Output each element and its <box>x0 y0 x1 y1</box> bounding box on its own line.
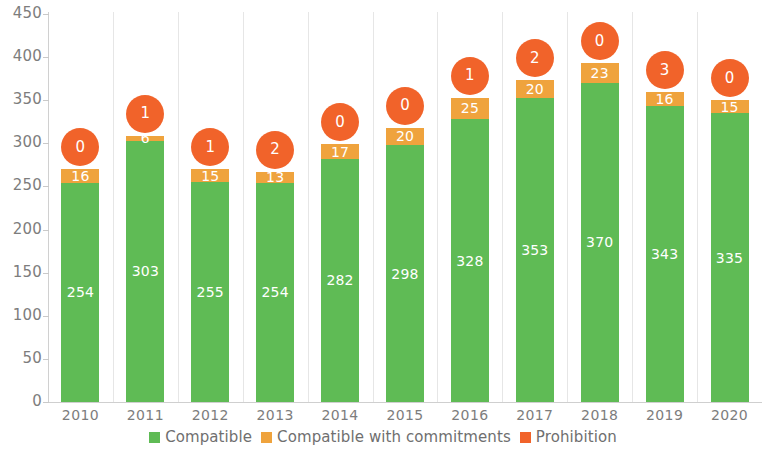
prohibition-bubble-2014[interactable]: 0 <box>321 103 359 141</box>
vertical-gridline <box>567 12 568 402</box>
y-axis-tick <box>43 14 49 15</box>
vertical-gridline <box>502 12 503 402</box>
y-axis-tick-label: 200 <box>2 222 42 237</box>
legend-item-2[interactable]: Prohibition <box>520 430 617 445</box>
vertical-gridline <box>373 12 374 402</box>
vertical-gridline <box>113 12 114 402</box>
y-axis-tick-label: 450 <box>2 6 42 21</box>
bar-value-label-compatible: 282 <box>321 273 359 287</box>
x-axis-label-2019: 2019 <box>635 408 695 422</box>
y-axis-tick-label: 100 <box>2 308 42 323</box>
bar-column-2016[interactable]: 32825 <box>451 98 489 402</box>
x-axis-label-2014: 2014 <box>310 408 370 422</box>
legend-label: Compatible <box>165 430 252 445</box>
legend-item-1[interactable]: Compatible with commitments <box>261 430 511 445</box>
y-axis-tick-label: 350 <box>2 92 42 107</box>
x-axis-label-2010: 2010 <box>50 408 110 422</box>
y-axis-tick-label: 250 <box>2 178 42 193</box>
y-axis-labels: 050100150200250300350400450 <box>0 0 42 452</box>
legend-swatch-icon <box>520 432 531 443</box>
legend-swatch-icon <box>149 432 160 443</box>
prohibition-bubble-2018[interactable]: 0 <box>581 22 619 60</box>
prohibition-bubble-2015[interactable]: 0 <box>386 87 424 125</box>
legend-label: Compatible with commitments <box>277 430 511 445</box>
bar-column-2014[interactable]: 28217 <box>321 144 359 402</box>
vertical-gridline <box>178 12 179 402</box>
vertical-gridline <box>243 12 244 402</box>
y-axis-tick-label: 150 <box>2 265 42 280</box>
bar-column-2015[interactable]: 29820 <box>386 128 424 402</box>
x-axis-label-2017: 2017 <box>505 408 565 422</box>
chart-legend: CompatibleCompatible with commitmentsPro… <box>0 430 766 445</box>
bar-value-label-compatible: 254 <box>256 285 294 299</box>
bar-value-label-commitments: 15 <box>711 100 749 114</box>
bar-value-label-compatible: 328 <box>451 254 489 268</box>
y-axis-tick-label: 400 <box>2 49 42 64</box>
y-axis-tick <box>43 100 49 101</box>
y-axis-tick-label: 300 <box>2 135 42 150</box>
x-axis-label-2015: 2015 <box>375 408 435 422</box>
x-axis-line <box>48 402 762 403</box>
x-axis-label-2011: 2011 <box>115 408 175 422</box>
y-axis-tick <box>43 143 49 144</box>
bar-value-label-compatible: 298 <box>386 267 424 281</box>
legend-item-0[interactable]: Compatible <box>149 430 252 445</box>
y-axis-tick <box>43 273 49 274</box>
bar-value-label-compatible: 303 <box>126 264 164 278</box>
bar-value-label-commitments: 15 <box>191 169 229 183</box>
bar-value-label-commitments: 16 <box>646 92 684 106</box>
bar-value-label-commitments: 6 <box>126 131 164 145</box>
bar-value-label-commitments: 25 <box>451 101 489 115</box>
bar-value-label-compatible: 254 <box>61 285 99 299</box>
bar-value-label-commitments: 20 <box>386 129 424 143</box>
bar-column-2020[interactable]: 33515 <box>711 100 749 402</box>
prohibition-bubble-2011[interactable]: 1 <box>126 95 164 133</box>
bar-value-label-commitments: 17 <box>321 145 359 159</box>
prohibition-bubble-2017[interactable]: 2 <box>516 39 554 77</box>
legend-label: Prohibition <box>536 430 617 445</box>
vertical-gridline <box>437 12 438 402</box>
bar-column-2010[interactable]: 25416 <box>61 169 99 402</box>
y-axis-tick-label: 50 <box>2 351 42 366</box>
bar-value-label-compatible: 370 <box>581 235 619 249</box>
legend-swatch-icon <box>261 432 272 443</box>
y-axis-tick <box>43 57 49 58</box>
y-axis-tick <box>43 186 49 187</box>
bar-value-label-commitments: 23 <box>581 66 619 80</box>
bar-value-label-commitments: 20 <box>516 82 554 96</box>
x-axis-label-2012: 2012 <box>180 408 240 422</box>
y-axis-tick <box>43 230 49 231</box>
y-axis-tick <box>43 359 49 360</box>
bar-value-label-compatible: 353 <box>516 243 554 257</box>
prohibition-bubble-2020[interactable]: 0 <box>711 59 749 97</box>
bar-column-2011[interactable]: 3036 <box>126 136 164 402</box>
vertical-gridline <box>632 12 633 402</box>
bar-value-label-compatible: 255 <box>191 285 229 299</box>
y-axis-tick <box>43 402 49 403</box>
prohibition-bubble-2019[interactable]: 3 <box>646 51 684 89</box>
x-axis-label-2013: 2013 <box>245 408 305 422</box>
stacked-bar-chart: 050100150200250300350400450 201020112012… <box>0 0 766 452</box>
bar-value-label-compatible: 335 <box>711 251 749 265</box>
bar-column-2017[interactable]: 35320 <box>516 80 554 402</box>
vertical-gridline <box>697 12 698 402</box>
bar-column-2018[interactable]: 37023 <box>581 63 619 402</box>
bar-column-2019[interactable]: 34316 <box>646 92 684 402</box>
vertical-gridline <box>308 12 309 402</box>
x-axis-label-2016: 2016 <box>440 408 500 422</box>
prohibition-bubble-2016[interactable]: 1 <box>451 57 489 95</box>
bar-value-label-commitments: 16 <box>61 169 99 183</box>
bar-column-2013[interactable]: 25413 <box>256 172 294 402</box>
prohibition-bubble-2013[interactable]: 2 <box>256 131 294 169</box>
y-axis-tick-label: 0 <box>2 394 42 409</box>
x-axis-label-2018: 2018 <box>570 408 630 422</box>
bar-value-label-compatible: 343 <box>646 247 684 261</box>
x-axis-label-2020: 2020 <box>700 408 760 422</box>
bar-value-label-commitments: 13 <box>256 170 294 184</box>
bar-column-2012[interactable]: 25515 <box>191 169 229 402</box>
y-axis-tick <box>43 316 49 317</box>
